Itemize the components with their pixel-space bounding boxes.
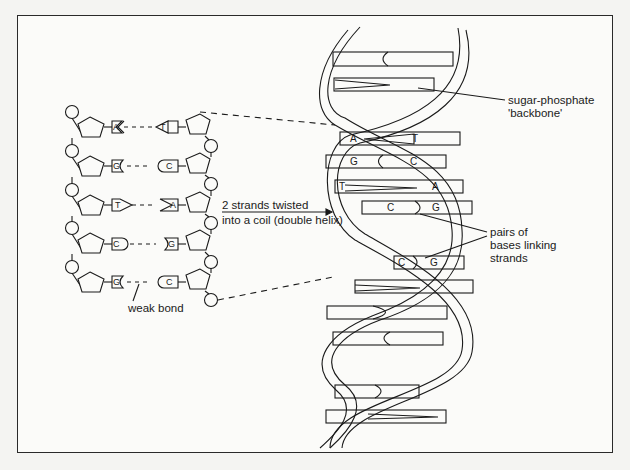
pairs-pointer-1	[420, 214, 487, 232]
flat-letters: A T G C T A C G G C	[113, 122, 176, 287]
svg-text:G: G	[350, 156, 358, 167]
base-pairs-label-line3: strands	[490, 252, 556, 265]
backbone-label-line2: 'backbone'	[508, 107, 594, 120]
base-pairs-label-line1: pairs of	[490, 226, 556, 239]
base-pairs-label: pairs of bases linking strands	[490, 226, 556, 265]
svg-text:C: C	[113, 239, 120, 249]
svg-text:G: G	[430, 257, 438, 268]
flat-base-pairs	[112, 121, 178, 301]
helix-rungs	[326, 52, 473, 423]
backbone-label: sugar-phosphate 'backbone'	[508, 94, 594, 120]
arrow-label-line1: 2 strands twisted	[222, 199, 343, 212]
svg-text:C: C	[166, 277, 173, 287]
pairs-pointer-2	[425, 236, 487, 258]
svg-text:C: C	[166, 161, 173, 171]
arrow-label: 2 strands twisted into a coil (double he…	[222, 199, 343, 227]
svg-text:C: C	[410, 156, 417, 167]
svg-text:G: G	[432, 202, 440, 213]
svg-text:G: G	[113, 161, 120, 171]
right-strand	[178, 114, 218, 307]
svg-text:C: C	[398, 257, 405, 268]
backbone-label-line1: sugar-phosphate	[508, 94, 594, 107]
svg-text:A: A	[113, 122, 119, 132]
projection-line-top	[200, 112, 335, 125]
weak-bond-label: weak bond	[128, 302, 184, 315]
svg-text:C: C	[387, 202, 394, 213]
svg-text:T: T	[115, 200, 121, 210]
svg-text:T: T	[160, 122, 166, 132]
svg-text:T: T	[412, 133, 418, 144]
arrow-label-line2: into a coil (double helix)	[222, 214, 343, 227]
projection-line-bottom	[218, 277, 333, 300]
svg-text:G: G	[113, 277, 120, 287]
svg-text:A: A	[170, 200, 176, 210]
backbone-pointer	[418, 88, 505, 100]
svg-text:A: A	[432, 181, 439, 192]
base-pairs-label-line2: bases linking	[490, 239, 556, 252]
double-helix	[320, 27, 473, 448]
svg-text:A: A	[350, 133, 357, 144]
svg-text:T: T	[339, 181, 345, 192]
left-strand	[66, 106, 113, 293]
svg-text:G: G	[168, 239, 175, 249]
